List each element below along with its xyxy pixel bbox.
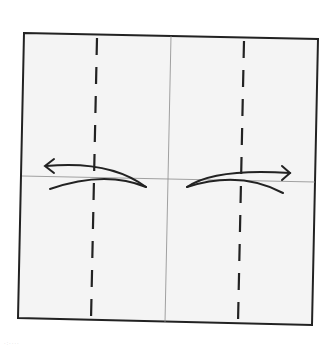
scan-artifact: ·:···· [4, 340, 20, 346]
origami-diagram [0, 0, 331, 347]
